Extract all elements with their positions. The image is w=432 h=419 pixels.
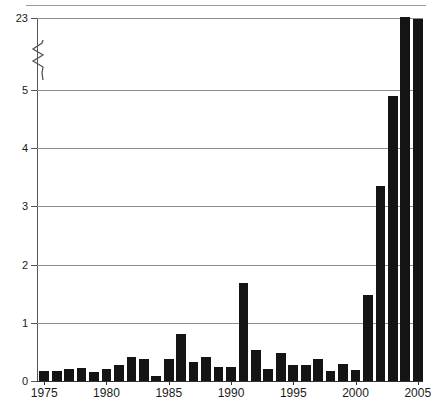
bar-1983 bbox=[139, 359, 149, 381]
y-axis-label-0: 0 bbox=[22, 376, 28, 387]
gridline-2 bbox=[37, 265, 423, 266]
bar-1982 bbox=[127, 357, 137, 381]
bar-1975 bbox=[39, 371, 49, 381]
x-axis-label-2000: 2000 bbox=[342, 387, 369, 400]
bar-1996 bbox=[301, 365, 311, 381]
bar-1977 bbox=[64, 369, 74, 381]
y-tick-5 bbox=[31, 90, 37, 91]
bar-1989 bbox=[214, 367, 224, 381]
bar-2002 bbox=[376, 186, 386, 381]
bar-2004 bbox=[400, 17, 410, 381]
gridline-23 bbox=[37, 18, 423, 19]
y-axis-label-1: 1 bbox=[22, 317, 28, 328]
y-tick-1 bbox=[31, 323, 37, 324]
x-tick-1975 bbox=[44, 381, 45, 385]
bar-1995 bbox=[288, 365, 298, 381]
y-tick-3 bbox=[31, 206, 37, 207]
bar-1998 bbox=[326, 371, 336, 381]
y-tick-2 bbox=[31, 265, 37, 266]
top-rule-divider bbox=[26, 5, 426, 6]
y-axis-label-23: 23 bbox=[16, 13, 28, 24]
y-axis-label-3: 3 bbox=[22, 201, 28, 212]
x-axis-label-1990: 1990 bbox=[218, 387, 245, 400]
y-axis-label-2: 2 bbox=[22, 259, 28, 270]
bar-1979 bbox=[89, 372, 99, 381]
bar-1994 bbox=[276, 353, 286, 381]
x-tick-1990 bbox=[231, 381, 232, 385]
bar-1997 bbox=[313, 359, 323, 381]
chart-figure: 01234523 1975198019851990199520002005 bbox=[0, 0, 432, 419]
bar-1993 bbox=[263, 369, 273, 381]
bar-1991 bbox=[239, 283, 249, 381]
bar-1981 bbox=[114, 365, 124, 381]
x-tick-2000 bbox=[356, 381, 357, 385]
bar-1987 bbox=[189, 362, 199, 381]
gridline-5 bbox=[37, 90, 423, 91]
x-axis-label-1985: 1985 bbox=[155, 387, 182, 400]
bar-1986 bbox=[176, 334, 186, 381]
x-axis-line bbox=[31, 381, 423, 382]
y-axis-label-4: 4 bbox=[22, 143, 28, 154]
bar-1976 bbox=[52, 371, 62, 381]
bar-1988 bbox=[201, 357, 211, 381]
bar-2003 bbox=[388, 96, 398, 381]
x-axis-label-1995: 1995 bbox=[280, 387, 307, 400]
gridline-4 bbox=[37, 148, 423, 149]
gridline-3 bbox=[37, 206, 423, 207]
x-tick-1985 bbox=[169, 381, 170, 385]
bar-2000 bbox=[351, 370, 361, 381]
plot-area: 01234523 bbox=[37, 18, 423, 381]
x-axis-label-2005: 2005 bbox=[404, 387, 431, 400]
bar-2005 bbox=[413, 19, 423, 381]
y-tick-0 bbox=[31, 381, 37, 382]
y-axis-label-5: 5 bbox=[22, 85, 28, 96]
bar-1984 bbox=[151, 376, 161, 381]
x-tick-1995 bbox=[293, 381, 294, 385]
x-tick-2005 bbox=[418, 381, 419, 385]
bar-1980 bbox=[102, 369, 112, 381]
x-tick-1980 bbox=[106, 381, 107, 385]
bar-1978 bbox=[77, 368, 87, 381]
bar-1999 bbox=[338, 364, 348, 381]
y-tick-4 bbox=[31, 148, 37, 149]
bar-1985 bbox=[164, 359, 174, 381]
bar-1990 bbox=[226, 367, 236, 381]
x-axis-label-1975: 1975 bbox=[31, 387, 58, 400]
x-axis-label-1980: 1980 bbox=[93, 387, 120, 400]
bar-2001 bbox=[363, 295, 373, 381]
bar-1992 bbox=[251, 350, 261, 381]
y-tick-23 bbox=[31, 18, 37, 19]
